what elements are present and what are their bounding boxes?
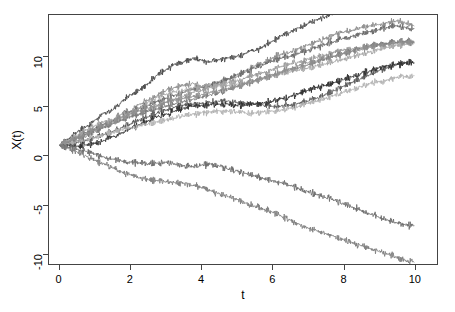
y-tick-label: 0 — [33, 155, 44, 161]
plot-figure: 0246810 -10-50510 t X(t) — [0, 0, 455, 312]
x-tick-label: 6 — [269, 274, 275, 285]
x-tick-mark — [59, 265, 60, 270]
x-tick-label: 4 — [198, 274, 204, 285]
y-tick-mark — [43, 254, 48, 255]
y-tick-label: -5 — [33, 205, 44, 215]
sample-path — [60, 144, 414, 230]
x-tick-label: 2 — [127, 274, 133, 285]
y-tick-label: 10 — [33, 56, 44, 68]
sample-path — [60, 59, 414, 149]
x-tick-mark — [272, 265, 273, 270]
y-tick-mark — [43, 205, 48, 206]
y-tick-label: -10 — [33, 254, 44, 270]
x-tick-label: 10 — [409, 274, 421, 285]
sample-paths-svg — [49, 15, 437, 264]
y-tick-label: 5 — [33, 106, 44, 112]
x-tick-mark — [415, 265, 416, 270]
y-tick-mark — [43, 106, 48, 107]
plot-area — [48, 14, 438, 265]
sample-path — [60, 144, 414, 264]
sample-path — [60, 60, 414, 148]
x-axis-label: t — [241, 288, 244, 302]
y-tick-mark — [43, 56, 48, 57]
y-axis-label: X(t) — [10, 130, 24, 149]
x-tick-label: 8 — [341, 274, 347, 285]
x-tick-label: 0 — [56, 274, 62, 285]
y-tick-mark — [43, 155, 48, 156]
sample-path — [60, 18, 414, 147]
x-tick-mark — [201, 265, 202, 270]
x-tick-mark — [344, 265, 345, 270]
x-tick-mark — [130, 265, 131, 270]
